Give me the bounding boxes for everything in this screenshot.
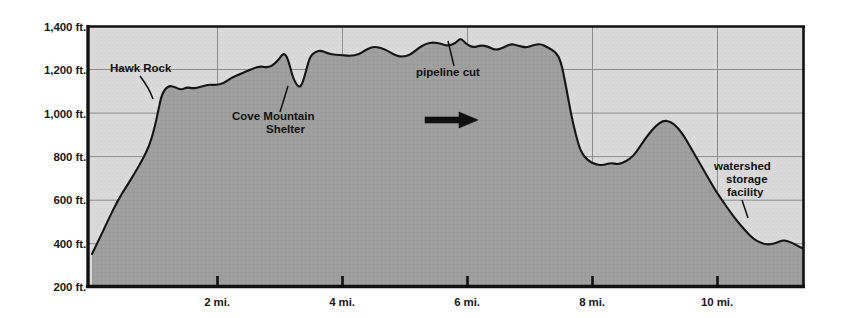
- y-tick-label-400: 400 ft.: [10, 238, 86, 250]
- y-tick-label-800: 800 ft.: [10, 151, 86, 163]
- watershed-label-line1: watershed: [713, 160, 771, 172]
- y-tick-label-1200: 1,200 ft.: [10, 64, 86, 76]
- hawk-rock-label: Hawk Rock: [110, 62, 172, 74]
- x-tick-label-10mi: 10 mi.: [701, 296, 733, 308]
- plot-area: Hawk Rock Cove Mountain Shelter pipeline…: [0, 0, 848, 318]
- y-tick-label-1400: 1,400 ft.: [10, 21, 86, 33]
- cove-mountain-shelter-label-line2: Shelter: [266, 123, 306, 135]
- pipeline-cut-label: pipeline cut: [416, 66, 480, 78]
- y-tick-label-600: 600 ft.: [10, 194, 86, 206]
- x-tick-label-8mi: 8 mi.: [579, 296, 605, 308]
- x-tick-label-6mi: 6 mi.: [454, 296, 480, 308]
- y-tick-label-1000: 1,000 ft.: [10, 108, 86, 120]
- x-tick-label-4mi: 4 mi.: [329, 296, 355, 308]
- y-tick-label-200: 200 ft.: [10, 281, 86, 293]
- elevation-profile-figure: 1,400 ft. 1,200 ft. 1,000 ft. 800 ft. 60…: [0, 0, 848, 318]
- watershed-label-line2: storage: [726, 173, 768, 185]
- watershed-label-line3: facility: [727, 186, 764, 198]
- cove-mountain-shelter-label-line1: Cove Mountain: [232, 110, 314, 122]
- x-tick-label-2mi: 2 mi.: [204, 296, 230, 308]
